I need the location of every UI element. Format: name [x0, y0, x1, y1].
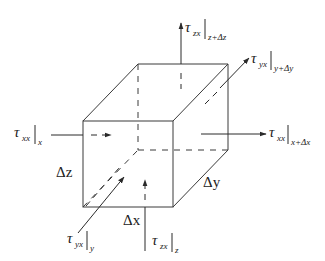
label-txx-x: τ xx x [14, 124, 42, 147]
cube-edge-top-left [83, 64, 138, 121]
label-tyx-ydy: τ yx y+Δy [251, 50, 293, 73]
svg-text:x: x [37, 137, 42, 147]
label-dx: Δx [123, 212, 141, 228]
label-txx-xdx: τ xx x+Δx [269, 124, 310, 147]
svg-text:zx: zx [192, 28, 201, 38]
svg-text:z+Δz: z+Δz [207, 32, 227, 42]
svg-text:z: z [174, 245, 179, 255]
svg-text:yx: yx [74, 239, 83, 249]
svg-text:τ: τ [269, 124, 275, 140]
svg-text:τ: τ [185, 19, 191, 35]
label-dz: Δz [56, 164, 73, 180]
stress-element-diagram: τ xx x τ xx x+Δx τ zx z+Δz τ yx y+Δy τ y… [0, 0, 325, 261]
label-dy: Δy [203, 174, 221, 190]
arrow-tyx-y [78, 168, 124, 233]
svg-text:x+Δx: x+Δx [290, 137, 310, 147]
svg-text:τ: τ [67, 230, 73, 246]
svg-text:xx: xx [276, 133, 285, 143]
svg-text:y+Δy: y+Δy [273, 63, 293, 73]
label-tyx-y: τ yx y [67, 230, 94, 253]
diagram-canvas: τ xx x τ xx x+Δx τ zx z+Δz τ yx y+Δy τ y… [0, 0, 325, 261]
svg-text:zx: zx [159, 241, 168, 251]
svg-text:yx: yx [258, 59, 267, 69]
svg-text:τ: τ [14, 124, 20, 140]
svg-text:xx: xx [21, 133, 30, 143]
svg-text:τ: τ [152, 232, 158, 248]
label-tzx-zdz: τ zx z+Δz [185, 19, 227, 42]
svg-text:τ: τ [251, 50, 257, 66]
label-tzx-z: τ zx z [152, 232, 179, 255]
cube-edge-top-right [173, 64, 228, 121]
svg-text:y: y [89, 243, 94, 253]
